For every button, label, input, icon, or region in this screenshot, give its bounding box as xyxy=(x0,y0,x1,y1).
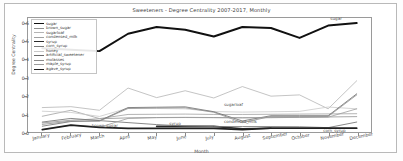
x-tick-mark xyxy=(70,133,71,136)
chart-legend[interactable]: sugarbrown_sugarsugarloafcondensed_milks… xyxy=(31,19,97,74)
legend-swatch-icon xyxy=(34,69,44,70)
x-tick-mark xyxy=(185,133,186,136)
x-tick-mark xyxy=(329,133,330,136)
chart-title: Sweeteners - Degree Centrality 2007-2017… xyxy=(0,7,403,13)
legend-swatch-icon xyxy=(34,51,44,52)
y-tick-mark xyxy=(24,41,27,42)
legend-swatch-icon xyxy=(34,60,44,61)
series-annotation: sugarloaf xyxy=(224,102,243,107)
x-tick-mark xyxy=(271,133,272,136)
series-annotation: corn_syrup xyxy=(323,128,345,133)
series-annotation: brown_sugar xyxy=(92,123,118,128)
y-tick-mark xyxy=(24,96,27,97)
x-axis-title: Month xyxy=(0,149,403,154)
series-line xyxy=(42,107,356,116)
legend-swatch-icon xyxy=(34,23,44,24)
legend-swatch-icon xyxy=(34,64,44,65)
x-tick-mark xyxy=(41,133,42,136)
legend-swatch-icon xyxy=(34,46,44,47)
series-annotation: syrup xyxy=(169,121,180,126)
series-annotation: sugar xyxy=(330,16,342,21)
legend-item-agave-syrup[interactable]: agave_syrup xyxy=(34,67,94,72)
x-tick-mark xyxy=(358,133,359,136)
x-tick-mark xyxy=(156,133,157,136)
legend-swatch-icon xyxy=(34,37,44,38)
x-tick-mark xyxy=(128,133,129,136)
legend-swatch-icon xyxy=(34,41,44,42)
x-tick-mark xyxy=(243,133,244,136)
y-tick-mark xyxy=(24,115,27,116)
x-tick-mark xyxy=(214,133,215,136)
legend-swatch-icon xyxy=(34,28,44,29)
series-annotation: condensed_milk xyxy=(224,119,257,124)
y-tick-mark xyxy=(24,59,27,60)
legend-item-label: agave_syrup xyxy=(46,67,71,72)
x-tick-mark xyxy=(300,133,301,136)
legend-swatch-icon xyxy=(34,55,44,56)
x-tick-mark xyxy=(99,133,100,136)
chart-figure: Sweeteners - Degree Centrality 2007-2017… xyxy=(0,0,403,161)
y-tick-mark xyxy=(24,78,27,79)
y-tick-mark xyxy=(24,133,27,134)
y-tick-mark xyxy=(24,23,27,24)
legend-swatch-icon xyxy=(34,32,44,33)
series-line xyxy=(42,81,356,110)
